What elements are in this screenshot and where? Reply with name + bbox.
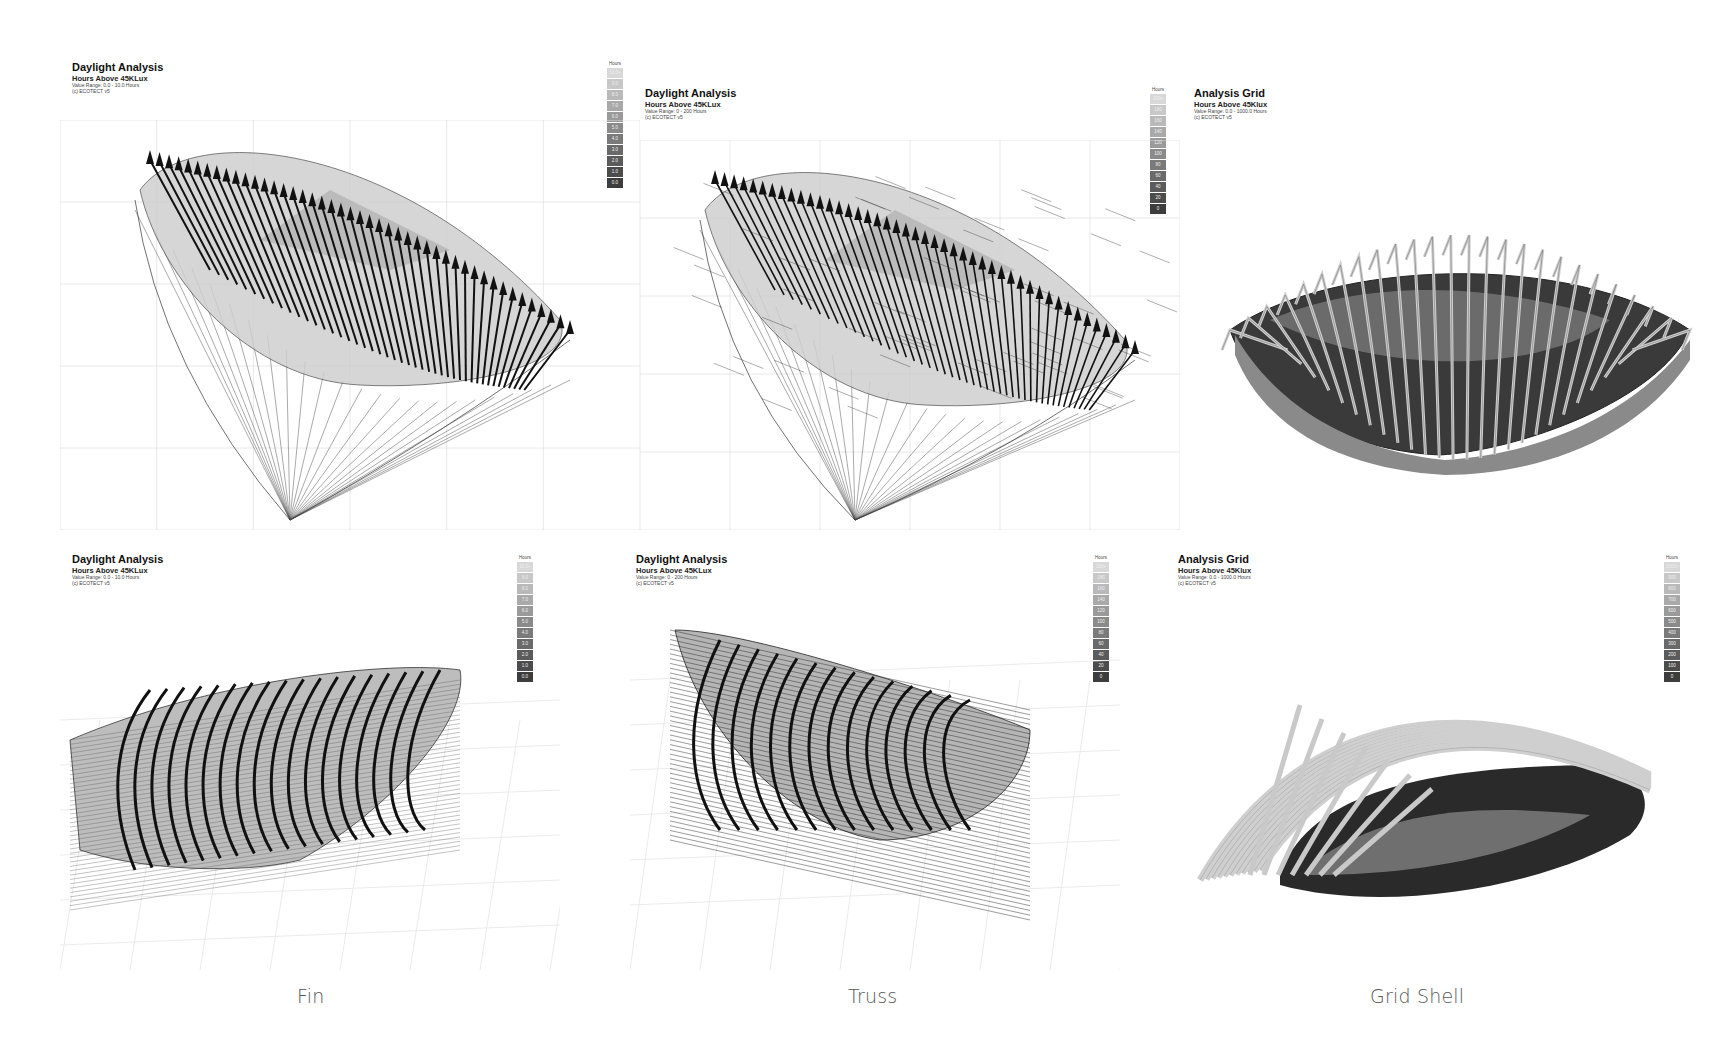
legend-swatch: 140 xyxy=(1093,595,1109,605)
legend-swatch: 140 xyxy=(1150,127,1166,137)
legend-swatch: 7.0 xyxy=(607,101,623,111)
legend-swatch: 3.0 xyxy=(517,639,533,649)
truss-structure-render-plan xyxy=(640,140,1180,530)
panel-title-block: Daylight Analysis Hours Above 45KLux Val… xyxy=(72,62,163,94)
legend-header: Hours xyxy=(517,554,533,562)
panel-title: Daylight Analysis xyxy=(636,554,727,566)
legend-swatch: 180 xyxy=(1150,105,1166,115)
legend-swatch: 200 xyxy=(1664,650,1680,660)
legend-swatch: 300 xyxy=(1664,639,1680,649)
legend-swatch: 400 xyxy=(1664,628,1680,638)
panel-gridshell-top: Analysis Grid Hours Above 45Klux Value R… xyxy=(1180,0,1727,530)
fin-structure-render-plan xyxy=(60,120,640,530)
legend-header: Hours xyxy=(607,60,623,68)
panel-title-block: Daylight Analysis Hours Above 45KLux Val… xyxy=(72,554,163,586)
legend-swatch: 600 xyxy=(1664,606,1680,616)
gridshell-structure-render-side xyxy=(1190,665,1690,935)
truss-structure-render-perspective xyxy=(630,620,1120,970)
panel-fin-top: Daylight Analysis Hours Above 45KLux Val… xyxy=(0,0,640,530)
legend-swatch: 500 xyxy=(1664,617,1680,627)
panel-title-block: Daylight Analysis Hours Above 45KLux Val… xyxy=(645,88,736,120)
panel-title-block: Daylight Analysis Hours Above 45KLux Val… xyxy=(636,554,727,586)
color-legend: Hours1000+9008007006005004003002001000 xyxy=(1664,554,1680,683)
legend-swatch: 180 xyxy=(1093,573,1109,583)
panel-title-block: Analysis Grid Hours Above 45Klux Value R… xyxy=(1178,554,1251,586)
legend-swatch: 8.0 xyxy=(607,90,623,100)
fin-structure-render-perspective xyxy=(60,660,560,970)
legend-swatch: 5.0 xyxy=(517,617,533,627)
legend-swatch: 900 xyxy=(1664,573,1680,583)
panel-subtitle: Hours Above 45Klux xyxy=(1178,567,1251,575)
legend-swatch: 8.0 xyxy=(517,584,533,594)
caption-grid-shell: Grid Shell xyxy=(1370,985,1464,1007)
panel-truss-bottom: Daylight Analysis Hours Above 45KLux Val… xyxy=(630,540,1120,970)
panel-title: Daylight Analysis xyxy=(645,88,736,100)
legend-swatch: 120 xyxy=(1093,606,1109,616)
legend-header: Hours xyxy=(1150,86,1166,94)
panel-title: Analysis Grid xyxy=(1194,88,1267,100)
credit: (c) ECOTECT v5 xyxy=(72,581,163,586)
credit: (c) ECOTECT v5 xyxy=(636,581,727,586)
legend-swatch: 2.0 xyxy=(517,650,533,660)
legend-swatch: 9.0 xyxy=(607,79,623,89)
legend-swatch: 1000+ xyxy=(1664,562,1680,572)
credit: (c) ECOTECT v5 xyxy=(1178,581,1251,586)
legend-swatch: 200+ xyxy=(1093,562,1109,572)
credit: (c) ECOTECT v5 xyxy=(1194,115,1267,120)
legend-swatch: 200+ xyxy=(1150,94,1166,104)
gridshell-structure-render-perspective xyxy=(1190,220,1720,510)
panel-subtitle: Hours Above 45KLux xyxy=(636,567,727,575)
panel-fin-bottom: Daylight Analysis Hours Above 45KLux Val… xyxy=(0,540,560,970)
panel-subtitle: Hours Above 45Klux xyxy=(1194,101,1267,109)
legend-swatch: 6.0 xyxy=(517,606,533,616)
credit: (c) ECOTECT v5 xyxy=(645,115,736,120)
legend-swatch: 700 xyxy=(1664,595,1680,605)
panel-subtitle: Hours Above 45KLux xyxy=(72,567,163,575)
legend-header: Hours xyxy=(1664,554,1680,562)
legend-swatch: 9.0 xyxy=(517,573,533,583)
panel-title: Daylight Analysis xyxy=(72,554,163,566)
legend-swatch: 160 xyxy=(1093,584,1109,594)
legend-swatch: 10.0+ xyxy=(607,68,623,78)
legend-swatch: 10.0+ xyxy=(517,562,533,572)
panel-truss-top: Daylight Analysis Hours Above 45KLux Val… xyxy=(640,0,1180,530)
legend-swatch: 4.0 xyxy=(517,628,533,638)
panel-gridshell-bottom: Analysis Grid Hours Above 45Klux Value R… xyxy=(1170,540,1727,970)
panel-title: Analysis Grid xyxy=(1178,554,1251,566)
legend-header: Hours xyxy=(1093,554,1109,562)
panel-title: Daylight Analysis xyxy=(72,62,163,74)
caption-truss: Truss xyxy=(848,985,897,1007)
panel-subtitle: Hours Above 45KLux xyxy=(645,101,736,109)
legend-swatch: 800 xyxy=(1664,584,1680,594)
panel-title-block: Analysis Grid Hours Above 45Klux Value R… xyxy=(1194,88,1267,120)
panel-subtitle: Hours Above 45KLux xyxy=(72,75,163,83)
legend-swatch: 7.0 xyxy=(517,595,533,605)
credit: (c) ECOTECT v5 xyxy=(72,89,163,94)
caption-fin: Fin xyxy=(297,985,324,1007)
legend-swatch: 160 xyxy=(1150,116,1166,126)
